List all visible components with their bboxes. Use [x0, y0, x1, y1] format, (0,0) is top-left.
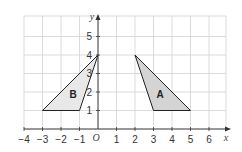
coordinate-grid-diagram: −4 −3 −2 −1 O 1 2 3 4 5 6 x 1 2 3 4 5 y …	[0, 0, 242, 152]
origin-label: O	[92, 132, 99, 143]
x-axis-arrow-icon	[225, 127, 231, 132]
x-tick-label: −2	[55, 134, 67, 145]
x-tick-label: 6	[206, 134, 212, 145]
y-axis-arrow-icon	[96, 14, 101, 20]
y-tick-label: 3	[86, 68, 92, 79]
x-tick-label: 4	[169, 134, 175, 145]
triangle-b	[43, 55, 99, 111]
triangle-a-label: A	[156, 89, 163, 100]
x-tick-label: −3	[37, 134, 49, 145]
triangle-a	[135, 55, 191, 111]
x-tick-label: 1	[114, 134, 120, 145]
y-axis-label: y	[89, 11, 95, 22]
x-axis-label: x	[223, 132, 229, 143]
y-tick-label: 4	[86, 50, 92, 61]
x-tick-label: 5	[188, 134, 194, 145]
x-tick-label: 2	[132, 134, 138, 145]
x-tick-label: −1	[74, 134, 86, 145]
grid-lines	[24, 16, 226, 129]
y-tick-label: 5	[86, 31, 92, 42]
coordinate-plane: −4 −3 −2 −1 O 1 2 3 4 5 6 x 1 2 3 4 5 y …	[0, 0, 242, 152]
y-tick-label: 1	[86, 105, 92, 116]
triangle-b-label: B	[69, 89, 76, 100]
x-tick-label: 3	[151, 134, 157, 145]
x-tick-label: −4	[18, 134, 30, 145]
y-tick-label: 2	[86, 87, 92, 98]
